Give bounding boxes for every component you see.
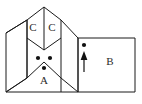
dot-a-left-marker [36,56,40,60]
dot-b-top-marker [82,43,86,47]
apex-to-right-fold-edge [44,7,61,20]
label-region-c-left: C [29,21,36,33]
arrow-b-head [81,51,88,60]
left-top-ridge-edge [6,20,27,33]
base-left-diagonal [6,78,27,92]
base-right-diagonal [61,78,78,92]
label-region-c-right: C [48,21,55,33]
dot-a-bottom-marker [42,66,46,70]
label-region-a: A [40,74,48,86]
dot-a-right-marker [48,56,52,60]
figure-svg: C C A B [0,0,142,104]
label-region-b: B [106,55,113,67]
diagram-canvas: C C A B [0,0,142,104]
apex-to-left-fold-edge [27,7,44,20]
right-top-ridge-edge [61,20,78,38]
